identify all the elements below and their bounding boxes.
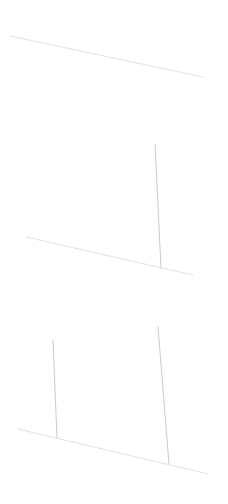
sketch-canvas [0,0,228,504]
canvas-background [0,0,228,504]
sketch-surface [0,0,228,504]
